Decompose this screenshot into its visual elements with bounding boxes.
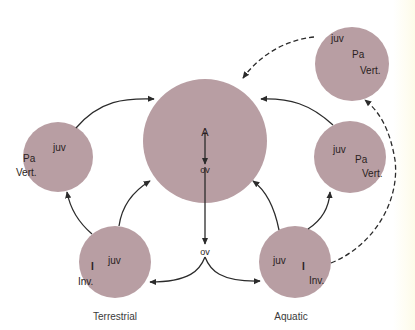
right-juv-label: juv: [332, 144, 346, 155]
left-vert-label: Vert.: [16, 167, 37, 178]
left-pa-label: Pa: [23, 153, 36, 164]
left-juv-label: juv: [52, 142, 66, 153]
topright-vert-label: Vert.: [360, 65, 381, 76]
arrow-right-to-central: [261, 99, 333, 125]
arrow-aquatic-to-central: [253, 181, 279, 230]
top-right-vert-node: [315, 27, 389, 101]
terrestrial-caption: Terrestrial: [93, 311, 137, 322]
life-cycle-diagram: A ov ov juv Pa Vert. juv Pa Vert. juv Pa…: [0, 0, 415, 330]
aquatic-node: [259, 226, 331, 298]
central-top-label: A: [201, 126, 209, 138]
arrow-terrestrial-to-central: [119, 181, 150, 226]
central-bottom-label: ov: [200, 165, 210, 175]
aquatic-i-label: I: [302, 261, 305, 272]
terrestrial-inv-label: Inv.: [78, 276, 93, 287]
arrow-egg-to-aquatic: [205, 257, 260, 281]
right-pa-label: Pa: [355, 154, 368, 165]
right-vert-node: [314, 121, 386, 193]
topright-pa-label: Pa: [352, 49, 365, 60]
arrow-egg-to-terrestrial: [150, 257, 205, 282]
arrow-aquatic-to-right: [308, 192, 330, 229]
arrow-left-to-central: [76, 99, 154, 128]
topright-juv-label: juv: [330, 33, 344, 44]
aquatic-caption: Aquatic: [274, 311, 307, 322]
right-vert-label: Vert.: [362, 168, 383, 179]
dashed-arrow-topright-to-central: [243, 37, 314, 78]
aquatic-juv-label: juv: [272, 255, 286, 266]
arrow-terrestrial-to-left: [67, 192, 92, 234]
aquatic-inv-label: Inv.: [309, 275, 324, 286]
terrestrial-juv-label: juv: [107, 255, 121, 266]
terrestrial-i-label: I: [91, 261, 94, 272]
egg-label: ov: [200, 247, 210, 257]
